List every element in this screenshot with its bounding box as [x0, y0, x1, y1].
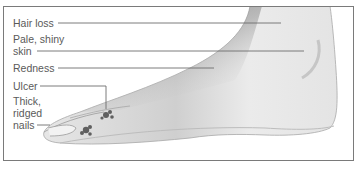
- label-redness: Redness: [13, 62, 54, 75]
- foot-illustration: [0, 0, 360, 169]
- label-thick-ridged-nails-line3: nails: [13, 119, 35, 132]
- label-ulcer: Ulcer: [13, 80, 38, 93]
- label-pale-shiny-skin-line2: skin: [13, 45, 32, 58]
- label-hair-loss: Hair loss: [13, 17, 54, 30]
- label-thick-ridged-nails-line2: ridged: [13, 107, 42, 120]
- label-pale-shiny-skin-line1: Pale, shiny: [13, 33, 64, 46]
- label-thick-ridged-nails-line1: Thick,: [13, 95, 41, 108]
